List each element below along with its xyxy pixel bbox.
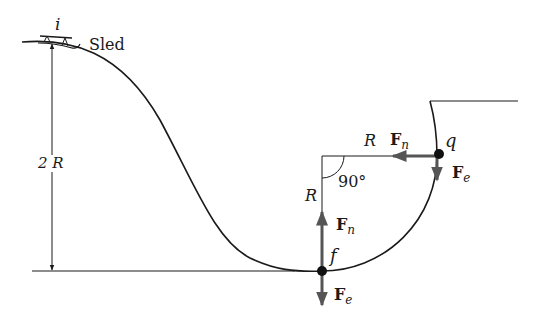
point-q-label: q <box>445 130 457 151</box>
sled-label: Sled <box>89 35 125 54</box>
track-hill <box>22 41 322 271</box>
force-weight-top-label: Fe <box>452 163 470 185</box>
angle-label: 90° <box>338 172 366 191</box>
point-q-dot <box>434 149 444 159</box>
force-normal-top-label: Fn <box>390 130 409 152</box>
sled-loop-diagram: 2 R i Sled R R 90° q Fn Fe f Fn Fe <box>0 0 539 315</box>
height-label: 2 R <box>37 154 64 172</box>
force-weight-bottom-label: Fe <box>334 285 352 307</box>
point-f-label: f <box>328 245 340 266</box>
start-point-label: i <box>55 14 60 34</box>
force-normal-bottom-label: Fn <box>336 215 355 237</box>
radius-vertical-label: R <box>304 186 317 205</box>
radius-horizontal-label: R <box>363 131 376 150</box>
point-f-dot <box>317 266 327 276</box>
